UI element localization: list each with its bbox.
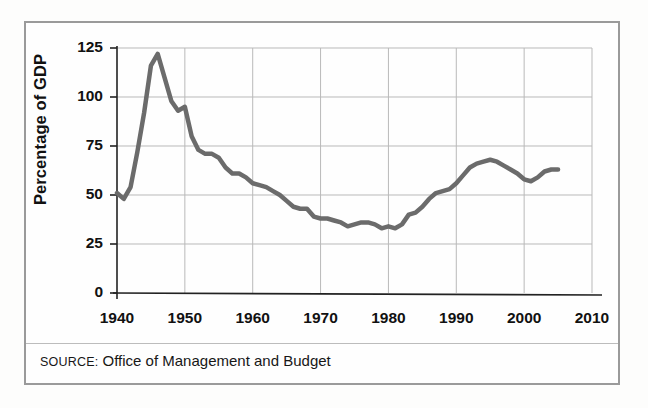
x-tick-label-1990: 1990	[426, 309, 486, 327]
x-tick-label-2010: 2010	[562, 309, 622, 327]
source-label: SOURCE:	[40, 355, 98, 369]
source-divider-rule	[26, 343, 618, 344]
source-line: SOURCE: Office of Management and Budget	[40, 352, 331, 369]
figure-outer-frame	[24, 21, 620, 385]
y-tick-label-75: 75	[59, 136, 103, 154]
y-tick-label-100: 100	[59, 87, 103, 105]
y-tick-label-0: 0	[59, 283, 103, 301]
x-tick-label-1940: 1940	[87, 309, 147, 327]
x-tick-label-1980: 1980	[358, 309, 418, 327]
x-tick-label-1960: 1960	[223, 309, 283, 327]
y-axis-title: Percentage of GDP	[31, 30, 50, 230]
x-tick-label-1970: 1970	[291, 309, 351, 327]
source-text: Office of Management and Budget	[103, 352, 331, 369]
x-tick-label-1950: 1950	[155, 309, 215, 327]
y-tick-label-125: 125	[59, 38, 103, 56]
y-tick-label-50: 50	[59, 185, 103, 203]
x-tick-label-2000: 2000	[494, 309, 554, 327]
figure-root: Percentage of GDP 0255075100125 19401950…	[0, 0, 648, 408]
y-tick-label-25: 25	[59, 234, 103, 252]
